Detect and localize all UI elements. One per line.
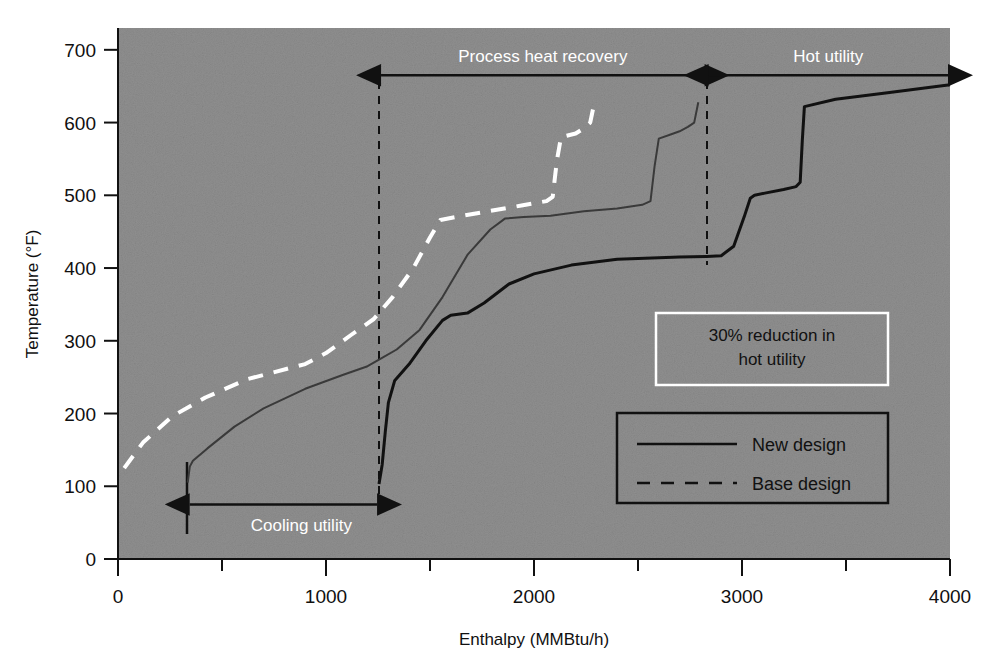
y-tick-label-700: 700 (64, 40, 96, 61)
x-tick-label-4000: 4000 (929, 586, 971, 607)
x-tick-label-1000: 1000 (305, 586, 347, 607)
callout-line-2: hot utility (738, 350, 806, 369)
x-axis-ticks (118, 559, 950, 576)
y-tick-label-500: 500 (64, 185, 96, 206)
y-tick-label-400: 400 (64, 258, 96, 279)
x-tick-label-2000: 2000 (513, 586, 555, 607)
y-tick-label-100: 100 (64, 476, 96, 497)
legend-label-base-design: Base design (752, 474, 851, 494)
y-axis-title: Temperature (°F) (23, 230, 42, 359)
y-axis-tick-labels: 0100200300400500600700 (64, 40, 96, 570)
label-cooling-utility: Cooling utility (251, 516, 353, 535)
composite-curve-chart: 0100200300400500600700 01000200030004000… (0, 0, 998, 665)
callout-line-1: 30% reduction in (709, 326, 836, 345)
y-tick-label-300: 300 (64, 331, 96, 352)
chart-figure: 0100200300400500600700 01000200030004000… (0, 0, 998, 665)
label-process-heat-recovery: Process heat recovery (458, 47, 628, 66)
x-axis-title: Enthalpy (MMBtu/h) (459, 630, 609, 649)
x-tick-label-0: 0 (113, 586, 124, 607)
y-axis-ticks (104, 50, 118, 559)
y-tick-label-200: 200 (64, 404, 96, 425)
y-tick-label-600: 600 (64, 113, 96, 134)
x-axis-tick-labels: 01000200030004000 (113, 586, 971, 607)
y-tick-label-0: 0 (85, 549, 96, 570)
legend-label-new-design: New design (752, 435, 846, 455)
x-tick-label-3000: 3000 (721, 586, 763, 607)
label-hot-utility: Hot utility (793, 47, 863, 66)
